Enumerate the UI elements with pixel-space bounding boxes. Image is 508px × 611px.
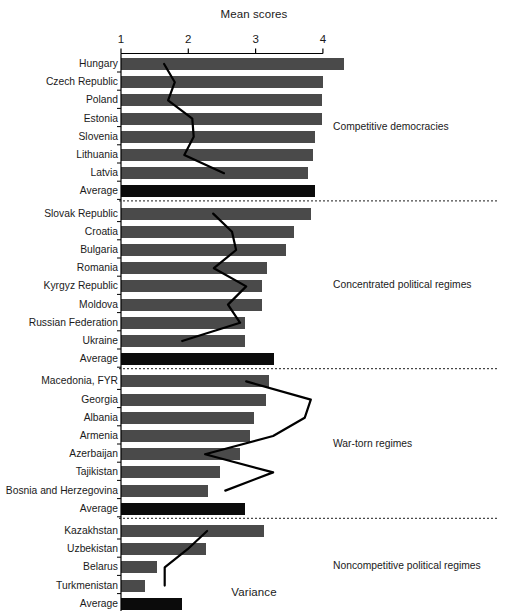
mean-score-line-group-3 xyxy=(165,531,207,586)
mean-score-line-group-2 xyxy=(205,381,311,490)
axes-and-line-overlay xyxy=(0,0,508,611)
mean-score-line-group-0 xyxy=(164,64,224,173)
chart-canvas: Mean scores Variance 1234 00.40.81.2 Hun… xyxy=(0,0,508,611)
mean-score-line-group-1 xyxy=(182,214,246,341)
